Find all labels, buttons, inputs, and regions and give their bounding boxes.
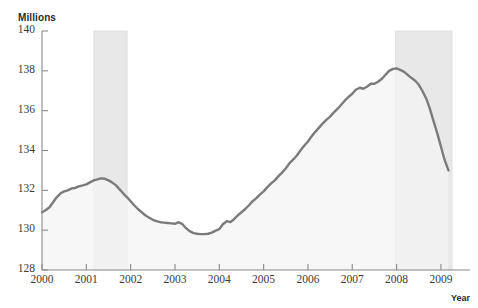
y-tick-label: 130 [9,222,35,234]
y-tick-label: 140 [9,23,35,35]
x-tick-label: 2002 [109,273,153,285]
employment-line-chart: Millions Year 12813013213413613814020002… [0,0,478,308]
x-tick-label: 2008 [375,273,419,285]
y-tick-label: 132 [9,182,35,194]
x-axis-title: Year [451,293,470,303]
y-tick-label: 134 [9,143,35,155]
x-tick-label: 2000 [20,273,64,285]
x-tick-label: 2001 [64,273,108,285]
y-tick-label: 138 [9,63,35,75]
x-tick-label: 2004 [197,273,241,285]
x-tick-label: 2006 [286,273,330,285]
x-tick-label: 2007 [330,273,374,285]
x-tick-label: 2003 [153,273,197,285]
y-tick-label: 136 [9,103,35,115]
plot-area [0,0,478,308]
x-tick-label: 2009 [419,273,463,285]
x-tick-label: 2005 [242,273,286,285]
